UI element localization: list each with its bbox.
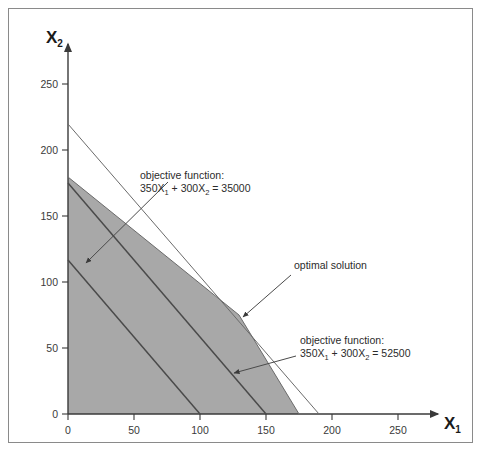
y-tick-label-200: 200 (26, 144, 58, 156)
annotation-objective-35000-line2: 350X1 + 300X2 = 35000 (140, 182, 251, 199)
y-tick-label-250: 250 (26, 78, 58, 90)
y-tick-label-50: 50 (26, 342, 58, 354)
y-axis-label: X2 (46, 28, 63, 49)
leader-optimal-solution (243, 275, 291, 317)
annotation-objective-52500-line2: 350X1 + 300X2 = 52500 (300, 347, 411, 364)
annotation-objective-35000: objective function: 350X1 + 300X2 = 3500… (140, 169, 251, 199)
y-axis-ticks (62, 84, 68, 414)
annotation-objective-52500: objective function: 350X1 + 300X2 = 5250… (300, 334, 411, 364)
plot-canvas (0, 0, 481, 451)
annotation-optimal-solution-label: optimal solution (294, 259, 367, 271)
annotation-objective-35000-line1: objective function: (140, 169, 224, 181)
x-tick-label-0: 0 (53, 424, 83, 436)
x-axis-label: X1 (444, 414, 461, 435)
y-tick-label-100: 100 (26, 276, 58, 288)
x-axis-ticks (68, 414, 398, 420)
y-tick-label-0: 0 (26, 408, 58, 420)
y-tick-label-150: 150 (26, 210, 58, 222)
feasible-region-polygon (68, 177, 299, 414)
annotation-objective-52500-line1: objective function: (300, 334, 384, 346)
x-tick-label-50: 50 (119, 424, 149, 436)
x-tick-label-200: 200 (317, 424, 347, 436)
annotation-optimal-solution: optimal solution (294, 259, 367, 272)
x-tick-label-100: 100 (185, 424, 215, 436)
x-tick-label-250: 250 (383, 424, 413, 436)
linear-programming-figure: X2 X1 0 50 100 150 200 250 0 50 100 150 … (0, 0, 481, 451)
x-tick-label-150: 150 (251, 424, 281, 436)
